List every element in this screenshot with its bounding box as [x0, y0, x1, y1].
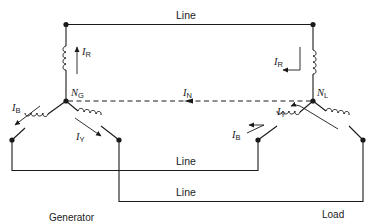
generator-yellow-current-indicator: IY	[75, 118, 101, 144]
load-neutral-label: NL	[316, 87, 328, 100]
svg-text:IR: IR	[81, 46, 92, 59]
left-arrow-icon	[247, 125, 264, 133]
bottom-line-label: Line	[176, 186, 196, 198]
middle-line-wire	[12, 140, 258, 171]
load-yellow-phase-winding	[258, 101, 313, 140]
generator-caption: Generator	[49, 212, 95, 223]
generator-yellow-phase-winding	[66, 101, 119, 140]
svg-text:NG: NG	[70, 87, 84, 100]
load-red-current-indicator: IR	[273, 47, 300, 70]
load-top-terminal-dot	[310, 22, 315, 27]
load-red-phase-winding	[313, 24, 316, 101]
generator-red-current-indicator: IR	[77, 46, 92, 74]
svg-text:IB: IB	[231, 129, 241, 142]
middle-line-label: Line	[176, 155, 196, 167]
generator-neutral-dot	[63, 98, 68, 103]
svg-text:NL: NL	[316, 87, 328, 100]
three-phase-circuit-diagram: Line NG IR IB IY IN	[0, 0, 376, 224]
load-caption: Load	[322, 209, 344, 220]
svg-text:IN: IN	[182, 87, 192, 100]
generator-neutral-label: NG	[70, 87, 84, 100]
load-neutral-dot	[310, 98, 315, 103]
top-line-label: Line	[176, 9, 196, 21]
svg-text:IY: IY	[276, 106, 286, 119]
neutral-current-indicator: IN	[182, 87, 193, 104]
generator-red-phase-winding	[63, 24, 66, 101]
load-blue-phase-winding	[313, 101, 363, 140]
svg-text:IY: IY	[75, 131, 85, 144]
svg-text:IR: IR	[273, 56, 284, 69]
svg-text:IB: IB	[11, 102, 21, 115]
generator-top-terminal-dot	[63, 22, 68, 27]
down-left-elbow-arrow-icon	[283, 47, 300, 70]
